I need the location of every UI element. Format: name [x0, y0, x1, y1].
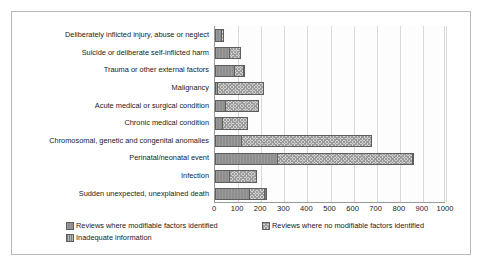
- stacked-bar: [215, 135, 372, 147]
- chart-frame: Deliberately inflicted injury, abuse or …: [11, 11, 471, 255]
- bar-row: [215, 61, 446, 79]
- bar-segment: [216, 189, 249, 199]
- category-label: Deliberately inflicted injury, abuse or …: [13, 30, 209, 39]
- bar-segment: [412, 154, 413, 164]
- stacked-bar: [215, 100, 259, 112]
- bar-row: [215, 184, 446, 202]
- category-label: Chromosomal, genetic and congenital anom…: [13, 136, 209, 145]
- bar-row: [215, 132, 446, 150]
- bar-segment: [216, 154, 277, 164]
- gridline: [446, 26, 447, 202]
- x-tick-label: 900: [416, 204, 429, 213]
- legend-item-modifiable-factors: Reviews where modifiable factors identif…: [66, 221, 218, 230]
- x-tick-label: 200: [254, 204, 267, 213]
- chart-legend: Reviews where modifiable factors identif…: [30, 221, 460, 251]
- stacked-bar: [215, 188, 267, 200]
- x-tick-label: 400: [300, 204, 313, 213]
- bar-segment: [243, 66, 244, 76]
- legend-label: Inadequate information: [76, 233, 152, 242]
- bar-segment: [249, 189, 264, 199]
- bar-segment: [241, 136, 370, 146]
- category-label: Infection: [13, 171, 209, 180]
- bar-row: [215, 26, 446, 44]
- stacked-bar: [215, 153, 414, 165]
- bar-segment: [216, 48, 229, 58]
- bar-segment: [277, 154, 412, 164]
- x-tick-label: 600: [346, 204, 359, 213]
- bar-segment: [225, 101, 257, 111]
- bar-segment: [264, 189, 265, 199]
- bar-row: [215, 149, 446, 167]
- x-tick-label: 700: [369, 204, 382, 213]
- stacked-bar: [215, 170, 257, 182]
- bar-segment: [216, 66, 234, 76]
- bar-row: [215, 114, 446, 132]
- legend-item-inadequate-information: Inadequate information: [66, 233, 152, 242]
- x-tick-label: 0: [212, 204, 216, 213]
- plot-area: [214, 26, 445, 202]
- x-tick-label: 1000: [437, 204, 454, 213]
- category-label: Perinatal/neonatal event: [13, 153, 209, 162]
- x-tick-label: 100: [231, 204, 244, 213]
- category-axis-labels: Deliberately inflicted injury, abuse or …: [14, 26, 212, 202]
- bar-segment: [229, 48, 241, 58]
- bar-segment: [221, 30, 223, 40]
- bar-segment: [234, 66, 242, 76]
- category-label: Chronic medical condition: [13, 118, 209, 127]
- stacked-bar: [215, 82, 264, 94]
- chart-plot-wrapper: Deliberately inflicted injury, abuse or …: [12, 12, 472, 256]
- legend-swatch-icon: [66, 234, 74, 242]
- category-label: Trauma or other external factors: [13, 65, 209, 74]
- category-label: Malignancy: [13, 83, 209, 92]
- x-tick-label: 800: [392, 204, 405, 213]
- stacked-bar: [215, 65, 245, 77]
- stacked-bar: [215, 29, 224, 41]
- bar-segment: [222, 118, 247, 128]
- bar-segment: [216, 101, 225, 111]
- category-label: Acute medical or surgical condition: [13, 101, 209, 110]
- x-tick-label: 500: [323, 204, 336, 213]
- legend-label: Reviews where modifiable factors identif…: [76, 221, 218, 230]
- legend-item-no-modifiable-factors: Reviews where no modifiable factors iden…: [262, 221, 424, 230]
- bar-row: [215, 167, 446, 185]
- bar-segment: [217, 83, 263, 93]
- legend-swatch-icon: [66, 222, 74, 230]
- stacked-bar: [215, 47, 241, 59]
- legend-label: Reviews where no modifiable factors iden…: [272, 221, 424, 230]
- category-label: Sudden unexpected, unexplained death: [13, 189, 209, 198]
- x-axis-tick-labels: 01002003004005006007008009001000: [214, 204, 445, 218]
- legend-swatch-icon: [262, 222, 270, 230]
- bar-row: [215, 79, 446, 97]
- x-tick-label: 300: [277, 204, 290, 213]
- stacked-bar: [215, 117, 248, 129]
- bar-segment: [216, 171, 229, 181]
- x-axis-line: [214, 202, 445, 203]
- bar-segment: [229, 171, 257, 181]
- bar-row: [215, 96, 446, 114]
- category-label: Suicide or deliberate self-inflicted har…: [13, 48, 209, 57]
- bar-segment: [216, 136, 241, 146]
- bar-row: [215, 44, 446, 62]
